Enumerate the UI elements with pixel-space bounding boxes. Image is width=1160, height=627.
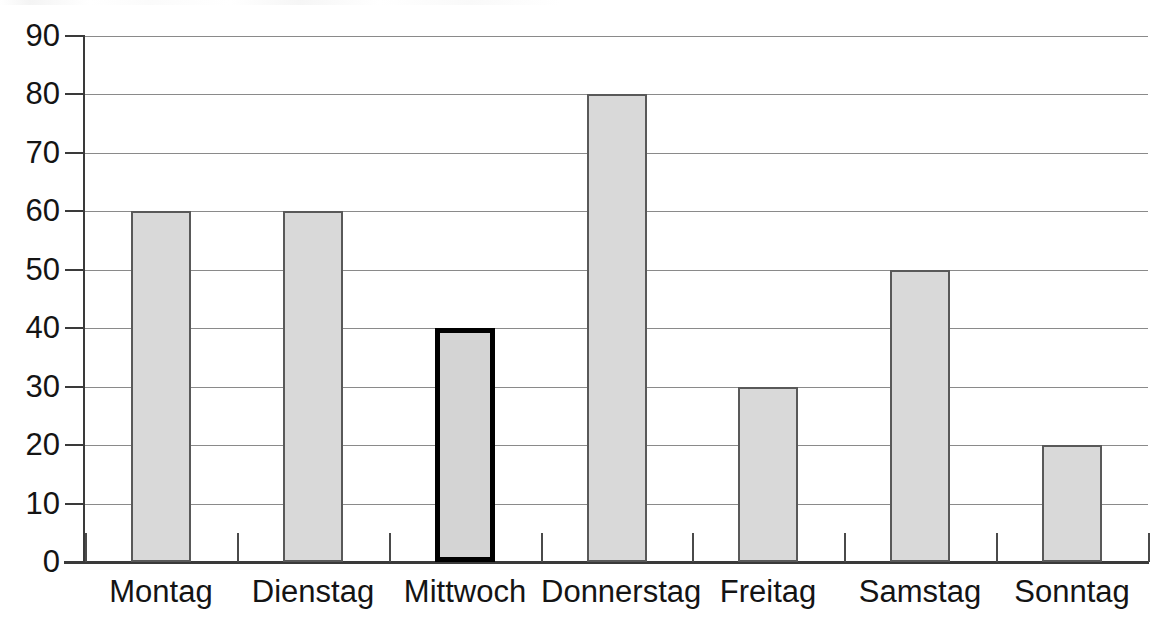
x-axis-tick bbox=[541, 533, 543, 562]
bar bbox=[587, 94, 647, 562]
bar-chart: 9080706050403020100 MontagDienstagMittwo… bbox=[0, 0, 1160, 627]
x-axis-labels: MontagDienstagMittwochDonnerstagFreitagS… bbox=[0, 570, 1160, 618]
x-axis-category-label: Freitag bbox=[692, 570, 844, 614]
bar-series bbox=[0, 36, 1160, 562]
bar bbox=[283, 211, 343, 562]
x-axis-tick bbox=[996, 533, 998, 562]
x-axis-category-label: Donnerstag bbox=[541, 570, 693, 614]
x-axis-category-label: Montag bbox=[85, 570, 237, 614]
x-axis-tick bbox=[844, 533, 846, 562]
x-axis-tick bbox=[237, 533, 239, 562]
bar-highlighted bbox=[435, 328, 495, 562]
x-axis-tick bbox=[85, 533, 87, 562]
bar bbox=[1042, 445, 1102, 562]
scan-edge-artifact bbox=[0, 0, 1160, 5]
x-axis-category-label: Sonntag bbox=[996, 570, 1148, 614]
x-axis-tick bbox=[1148, 533, 1150, 562]
bar bbox=[738, 387, 798, 562]
x-axis-category-label: Dienstag bbox=[237, 570, 389, 614]
x-axis-category-label: Samstag bbox=[844, 570, 996, 614]
x-axis-tick bbox=[692, 533, 694, 562]
x-axis-tick bbox=[389, 533, 391, 562]
bar bbox=[131, 211, 191, 562]
x-axis-category-label: Mittwoch bbox=[389, 570, 541, 614]
bar bbox=[890, 270, 950, 562]
